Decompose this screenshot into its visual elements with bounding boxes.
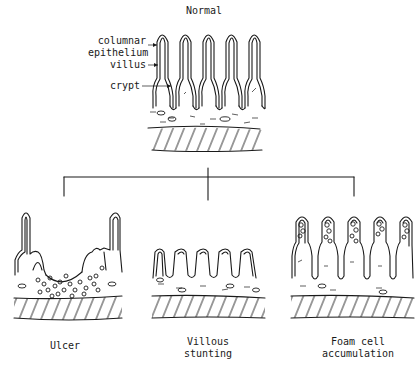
caption-ulcer: Ulcer — [40, 340, 90, 352]
ulcer-panel — [14, 213, 122, 320]
inflammatory-cells — [18, 266, 116, 298]
lamina-propria — [148, 88, 260, 129]
foam-cells — [298, 222, 409, 243]
panel-title-normal: Normal — [186, 5, 222, 17]
caption-foam-cell-accumulation: Foam cell accumulation — [318, 336, 398, 360]
villous-stunting-panel — [152, 249, 265, 318]
foam-cell-panel — [291, 217, 414, 318]
annotation-crypt: crypt — [104, 80, 140, 92]
branch-connector — [64, 168, 354, 200]
annotation-columnar-epithelium: columnar epithelium — [88, 35, 146, 59]
annotation-villus: villus — [104, 59, 146, 71]
pathology-diagram — [0, 0, 417, 372]
muscularis-hatched — [152, 128, 262, 152]
normal-panel — [142, 35, 265, 152]
caption-villous-stunting: Villous stunting — [178, 336, 238, 360]
normal-villi — [153, 35, 265, 110]
